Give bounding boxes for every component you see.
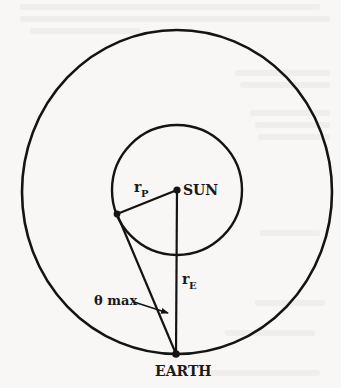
earth-dot [172,350,180,358]
planet-radius-label: r P [134,179,149,199]
theta-max-label: θ max [94,293,137,308]
diagram-canvas: SUN EARTH r P r E θ max [0,0,341,388]
orbit-diagram: SUN EARTH r P r E θ max [0,0,341,388]
earth-radius-label-sub: E [189,280,197,291]
earth-radius-line [176,190,177,354]
theta-max-arrow [134,302,168,313]
sun-dot [173,186,180,193]
line-of-sight [117,214,176,354]
sun-label: SUN [183,182,218,198]
planet-dot [114,211,121,218]
earth-label: EARTH [155,363,212,379]
earth-radius-label: r E [182,271,197,291]
planet-radius-label-sub: P [141,188,149,199]
